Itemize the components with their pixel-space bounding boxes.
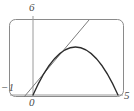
parabola-curve [33, 47, 118, 95]
x-min-label: −1 [1, 82, 14, 93]
graph-figure: 6 −1 0 5 [0, 0, 134, 111]
plot-canvas [0, 0, 134, 111]
origin-label: 0 [29, 97, 35, 108]
y-max-label: 6 [29, 2, 35, 13]
viewport-frame [10, 20, 124, 97]
tangent-line [24, 20, 89, 97]
x-max-label: 5 [124, 90, 130, 101]
